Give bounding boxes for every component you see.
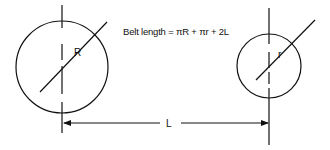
belt-length-diagram: R r L Belt length = πR + πr + 2L <box>0 0 330 150</box>
center-distance-label: L <box>166 118 172 129</box>
belt-length-formula: Belt length = πR + πr + 2L <box>123 26 229 37</box>
small-pulley-radius-line <box>256 20 315 80</box>
large-pulley-radius-label: R <box>74 47 81 58</box>
small-pulley: r <box>237 8 315 145</box>
center-distance-dimension: L <box>64 118 268 129</box>
large-pulley: R <box>16 5 108 133</box>
